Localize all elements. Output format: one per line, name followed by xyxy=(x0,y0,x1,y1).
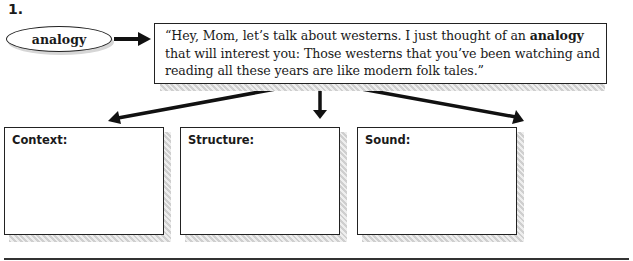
sound-box[interactable]: Sound: xyxy=(357,127,517,235)
quote-box: “Hey, Mom, let’s talk about westerns. I … xyxy=(154,23,607,84)
context-box[interactable]: Context: xyxy=(4,127,164,235)
bottom-divider xyxy=(4,258,629,260)
structure-label: Structure: xyxy=(188,133,254,147)
context-label: Context: xyxy=(12,133,67,147)
structure-box[interactable]: Structure: xyxy=(180,127,340,235)
arrow-down-right-icon xyxy=(345,86,524,124)
arrow-right-icon xyxy=(114,32,151,46)
sound-label: Sound: xyxy=(365,133,410,147)
arrow-down-left-icon xyxy=(108,86,292,124)
quote-bold-term: analogy xyxy=(530,28,584,43)
quote-text-start: “Hey, Mom, let’s talk about westerns. I … xyxy=(165,28,530,43)
quote-text-end: that will interest you: Those westerns t… xyxy=(165,46,600,79)
